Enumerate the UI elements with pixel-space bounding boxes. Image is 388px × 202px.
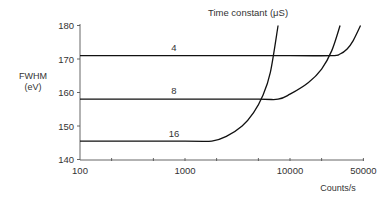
x-ticks: 10010001000050000 [72, 158, 377, 176]
y-tick-label: 170 [58, 54, 74, 65]
curve-tc-8 [80, 26, 340, 100]
fwhm-vs-count-rate-chart: Time constant (μS) FWHM (eV) 14015016017… [0, 0, 388, 202]
y-axis-label-line1: FWHM [19, 71, 47, 81]
x-tick-label: 1000 [174, 165, 195, 176]
x-tick-label: 10000 [277, 165, 303, 176]
curve-label-8: 8 [171, 85, 176, 96]
curve-labels: 4816 [169, 42, 180, 139]
y-axis-label-line2: (eV) [24, 82, 41, 92]
chart-title: Time constant (μS) [208, 7, 288, 18]
x-tick-label: 100 [72, 165, 88, 176]
y-tick-label: 180 [58, 20, 74, 31]
y-tick-label: 150 [58, 121, 74, 132]
y-ticks: 140150160170180 [58, 20, 80, 165]
axes [80, 24, 364, 160]
y-tick-label: 160 [58, 87, 74, 98]
curve-label-16: 16 [169, 128, 180, 139]
x-axis-label: Counts/s [320, 183, 356, 193]
curve-label-4: 4 [171, 42, 176, 53]
data-curves [80, 26, 361, 142]
x-tick-label: 50000 [350, 165, 376, 176]
curve-tc-4 [80, 26, 361, 56]
curve-tc-16 [80, 26, 278, 142]
y-tick-label: 140 [58, 154, 74, 165]
